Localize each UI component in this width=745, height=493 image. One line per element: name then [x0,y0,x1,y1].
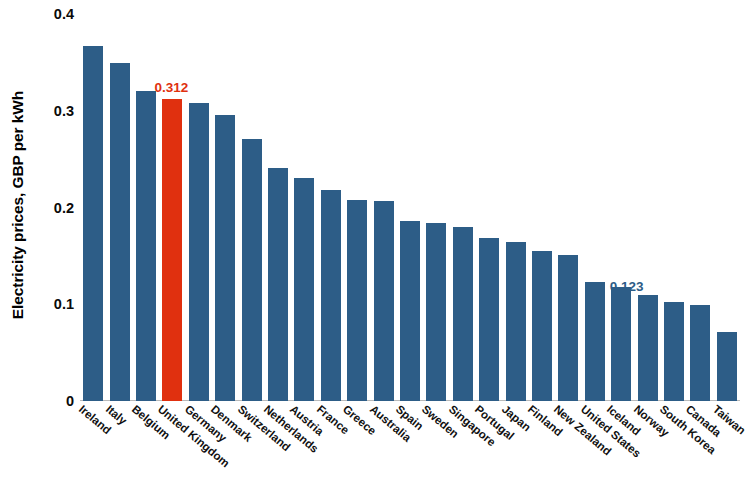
y-axis-tick-0: 0 [34,393,74,409]
bar-taiwan[interactable] [717,332,737,401]
bar-australia[interactable] [374,201,394,401]
bar-singapore[interactable] [453,227,473,401]
bar-japan[interactable] [506,242,526,401]
y-axis-tick-0-1: 0.1 [34,296,74,312]
bar-switzerland[interactable] [242,139,262,401]
bar-netherlands[interactable] [268,168,288,401]
bar-france[interactable] [321,190,341,401]
x-axis-category-labels: IrelandItalyBelgiumUnited KingdomGermany… [80,402,745,493]
bar-germany[interactable] [189,103,209,401]
bar-belgium[interactable] [136,91,156,401]
y-axis-tick-0-3: 0.3 [34,103,74,119]
bar-value-label-united-states: 0.123 [610,279,644,294]
bar-ireland[interactable] [83,46,103,401]
bar-greece[interactable] [347,200,367,401]
bar-italy[interactable] [110,63,130,401]
y-axis-title-text: Electricity prices, GBP per kWh [9,91,27,319]
bar-denmark[interactable] [215,115,235,401]
y-axis-tick-0-4: 0.4 [34,6,74,22]
bar-norway[interactable] [638,295,658,401]
y-axis-tick-0-2: 0.2 [34,200,74,216]
bar-spain[interactable] [400,221,420,401]
bar-new-zealand[interactable] [558,255,578,401]
bar-iceland[interactable] [611,287,631,401]
bar-sweden[interactable] [426,223,446,401]
bar-finland[interactable] [532,251,552,401]
bar-value-label-united-kingdom: 0.312 [154,80,188,95]
bar-austria[interactable] [294,178,314,401]
bar-canada[interactable] [690,305,710,401]
bar-portugal[interactable] [479,238,499,401]
y-axis-tick-labels: 00.10.20.30.4 [28,0,74,410]
plot-area: 0.3120.123 [80,14,740,401]
bar-chart: Electricity prices, GBP per kWh 00.10.20… [0,0,745,493]
bar-united-states[interactable] [585,282,605,401]
bar-united-kingdom[interactable] [162,99,182,401]
bar-south-korea[interactable] [664,302,684,401]
